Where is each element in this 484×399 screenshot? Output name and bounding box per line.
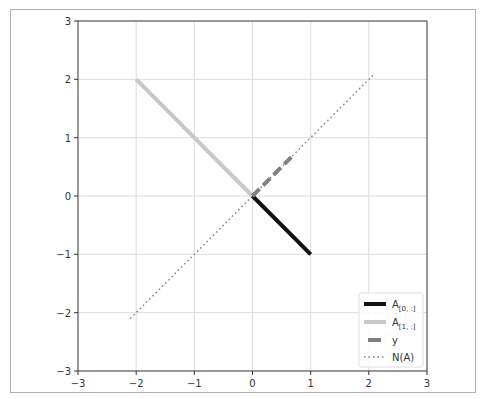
y-tick-label: 2 (65, 74, 71, 85)
x-tick-label: 1 (308, 378, 314, 389)
x-tick-label: −3 (71, 378, 86, 389)
chart-canvas: −3 −2 −1 0 1 2 3 3 2 1 0 −1 −2 −3 A[0, :… (0, 0, 484, 399)
legend: A[0, :] A[1, :] y N(A) (359, 293, 423, 367)
x-tick-label: 0 (249, 378, 255, 389)
y-tick-label: −2 (56, 308, 71, 319)
x-tick-label: 2 (366, 378, 372, 389)
y-tick-label: −3 (56, 366, 71, 377)
x-axis (78, 371, 427, 375)
y-tick-label: 1 (65, 133, 71, 144)
y-tick-label: 0 (65, 191, 71, 202)
y-tick-label: −1 (56, 249, 71, 260)
y-tick-label: 3 (65, 16, 71, 27)
series-a0-line (253, 196, 311, 254)
legend-label-y: y (392, 335, 398, 346)
y-axis (74, 21, 78, 371)
x-tick-label: 3 (424, 378, 430, 389)
x-tick-label: −1 (187, 378, 202, 389)
x-tick-label: −2 (129, 378, 144, 389)
series-y-line (253, 155, 294, 196)
legend-label-nullspace: N(A) (392, 352, 414, 363)
